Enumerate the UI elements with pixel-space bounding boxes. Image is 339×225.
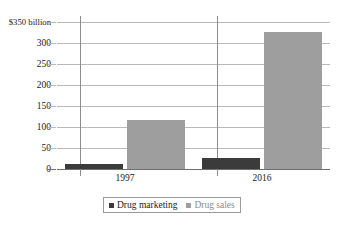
y-tick-mark-250 [48, 64, 56, 65]
y-tick-mark-0 [48, 169, 56, 170]
gridline-350 [57, 22, 330, 23]
category-separator-1997 [80, 16, 81, 176]
axis-baseline [57, 169, 330, 170]
legend-label-drug-marketing: Drug marketing [117, 200, 177, 210]
category-separator-2016 [217, 16, 218, 176]
bar-1997-drug-sales [127, 120, 185, 169]
bar-2016-drug-sales [264, 32, 322, 169]
x-tick-label-1997: 1997 [116, 173, 135, 184]
y-tick-mark-200 [48, 85, 56, 86]
x-tick-label-2016: 2016 [253, 173, 272, 184]
chart-legend: Drug marketingDrug sales [103, 197, 241, 213]
legend-swatch-marketing [109, 203, 114, 208]
legend-item-drug-marketing[interactable]: Drug marketing [109, 200, 177, 210]
y-tick-mark-350 [48, 22, 56, 23]
bar-2016-drug-marketing [202, 158, 260, 169]
y-tick-mark-150 [48, 106, 56, 107]
y-tick-mark-50 [48, 148, 56, 149]
legend-item-drug-sales[interactable]: Drug sales [186, 200, 234, 210]
bar-chart: 050100150200250300$350 billion 19972016 … [0, 0, 339, 225]
x-axis-labels: 19972016 [57, 173, 330, 189]
y-axis-labels: 050100150200250300$350 billion [0, 14, 54, 179]
y-tick-label-350: $350 billion [9, 17, 51, 27]
legend-swatch-sales [186, 203, 191, 208]
y-tick-mark-300 [48, 43, 56, 44]
bar-1997-drug-marketing [65, 164, 123, 169]
y-tick-mark-100 [48, 127, 56, 128]
plot-area [57, 22, 330, 169]
legend-label-drug-sales: Drug sales [194, 200, 234, 210]
